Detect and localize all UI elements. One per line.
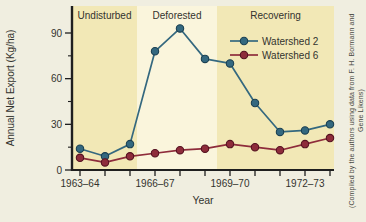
data-point-watershed-6: [201, 145, 208, 152]
data-point-watershed-6: [76, 154, 83, 161]
phase-label-deforested: Deforested: [153, 10, 202, 21]
data-point-watershed-2: [151, 48, 158, 55]
data-point-watershed-2: [76, 145, 83, 152]
legend-marker-watershed-6: [240, 51, 247, 58]
x-tick-label: 1963–64: [61, 178, 100, 189]
x-tick-label: 1966–67: [136, 178, 175, 189]
data-point-watershed-2: [226, 60, 233, 67]
data-point-watershed-2: [251, 99, 258, 106]
x-tick-label: 1969–70: [211, 178, 250, 189]
legend-label-watershed-2: Watershed 2: [262, 36, 319, 47]
data-point-watershed-6: [301, 140, 308, 147]
credit-caption: (Compiled by the authors using data from…: [348, 4, 366, 218]
legend-label-watershed-6: Watershed 6: [262, 50, 319, 61]
data-point-watershed-6: [126, 153, 133, 160]
y-tick-label: 0: [56, 165, 62, 176]
data-point-watershed-2: [276, 128, 283, 135]
data-point-watershed-6: [226, 140, 233, 147]
line-chart: UndisturbedDeforestedRecovering1963–6419…: [0, 0, 366, 222]
data-point-watershed-6: [151, 150, 158, 157]
y-axis-title: Annual Net Export (Kg/ha): [5, 30, 16, 147]
data-point-watershed-2: [201, 55, 208, 62]
figure-scan: UndisturbedDeforestedRecovering1963–6419…: [0, 0, 366, 222]
y-tick-label: 60: [51, 73, 63, 84]
y-tick-label: 30: [51, 119, 63, 130]
data-point-watershed-6: [176, 147, 183, 154]
data-point-watershed-6: [326, 134, 333, 141]
phase-label-undisturbed: Undisturbed: [78, 10, 132, 21]
data-point-watershed-6: [251, 143, 258, 150]
y-tick-label: 90: [51, 28, 63, 39]
data-point-watershed-2: [176, 25, 183, 32]
x-axis-title: Year: [192, 194, 214, 206]
phase-label-recovering: Recovering: [250, 10, 301, 21]
legend-marker-watershed-2: [240, 37, 247, 44]
data-point-watershed-6: [276, 147, 283, 154]
data-point-watershed-2: [301, 127, 308, 134]
x-tick-label: 1972–73: [286, 178, 325, 189]
data-point-watershed-2: [126, 140, 133, 147]
data-point-watershed-2: [326, 121, 333, 128]
data-point-watershed-6: [101, 159, 108, 166]
